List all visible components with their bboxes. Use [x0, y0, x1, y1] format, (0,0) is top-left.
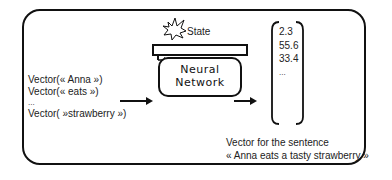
state-starburst-icon	[163, 18, 186, 40]
neural-network-label: Neural Network	[162, 63, 238, 89]
output-ellipsis: ...	[279, 66, 298, 80]
output-value: 55.6	[279, 39, 298, 53]
nn-label-line1: Neural	[162, 63, 238, 76]
input-ellipsis: ...	[28, 97, 126, 108]
input-vector: Vector( »strawberry »)	[28, 108, 126, 120]
input-vector: Vector(« Anna »)	[28, 74, 126, 86]
caption-line2: « Anna eats a tasty strawberry »	[226, 149, 369, 162]
output-arrow-icon	[234, 97, 257, 105]
output-value: 33.4	[279, 52, 298, 66]
caption-line1: Vector for the sentence	[226, 136, 369, 149]
output-value: 2.3	[279, 25, 298, 39]
state-label: State	[187, 26, 210, 37]
nn-label-line2: Network	[162, 76, 238, 89]
sentence-vector-caption: Vector for the sentence « Anna eats a ta…	[226, 136, 369, 162]
input-vectors-list: Vector(« Anna ») Vector(« eats ») ... Ve…	[28, 74, 126, 120]
input-vector: Vector(« eats »)	[28, 86, 126, 98]
output-vector-values: 2.3 55.6 33.4 ...	[279, 25, 298, 79]
